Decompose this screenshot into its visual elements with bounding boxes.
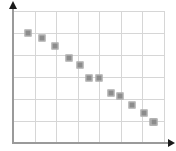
plot-area bbox=[13, 11, 164, 143]
data-point bbox=[128, 101, 135, 108]
gridline-vertical bbox=[78, 11, 79, 143]
data-point bbox=[151, 119, 158, 126]
data-point bbox=[96, 75, 103, 82]
data-point bbox=[140, 110, 147, 117]
scatter-plot-figure bbox=[0, 0, 176, 151]
data-point bbox=[76, 61, 83, 68]
gridline-vertical bbox=[164, 11, 165, 143]
gridline-vertical bbox=[56, 11, 57, 143]
data-point bbox=[52, 42, 59, 49]
gridline-vertical bbox=[142, 11, 143, 143]
y-axis-arrow-icon bbox=[9, 1, 17, 9]
y-axis-line bbox=[12, 8, 14, 143]
gridline-vertical bbox=[121, 11, 122, 143]
gridline-vertical bbox=[35, 11, 36, 143]
data-point bbox=[39, 35, 46, 42]
x-axis-arrow-icon bbox=[168, 139, 175, 147]
data-point bbox=[108, 90, 115, 97]
data-point bbox=[24, 30, 31, 37]
data-point bbox=[85, 75, 92, 82]
data-point bbox=[65, 55, 72, 62]
data-point bbox=[116, 92, 123, 99]
x-axis-line bbox=[12, 142, 172, 144]
